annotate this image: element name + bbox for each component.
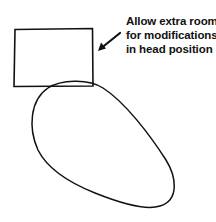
- arrow-icon: [98, 33, 120, 51]
- annotation-line-2: for modifications: [126, 28, 216, 42]
- annotation-text: Allow extra room for modifications in he…: [126, 14, 216, 56]
- annotation-line-3: in head position: [126, 42, 216, 56]
- clearance-rectangle: [14, 29, 93, 87]
- head-oval: [32, 81, 174, 207]
- annotation-line-1: Allow extra room: [126, 14, 216, 28]
